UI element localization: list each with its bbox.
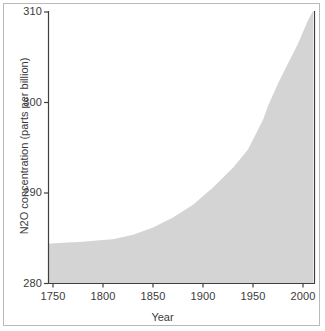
area-chart-plot [0, 0, 325, 331]
y-axis-title: N2O concentration (parts per billion) [18, 58, 30, 235]
x-axis-tick-label: 1800 [78, 290, 128, 302]
x-axis-tick-label: 2000 [278, 290, 325, 302]
x-axis-tick-label: 1850 [128, 290, 178, 302]
x-axis-tick-label: 1750 [28, 290, 78, 302]
x-axis-title: Year [0, 311, 325, 323]
x-axis-tick-label: 1950 [228, 290, 278, 302]
x-axis-tick-label: 1900 [178, 290, 228, 302]
chart-figure: 280290300310 175018001850190019502000 N2… [0, 0, 325, 331]
y-axis-title-container: N2O concentration (parts per billion) [14, 6, 30, 286]
y-axis-ticks [44, 12, 48, 284]
